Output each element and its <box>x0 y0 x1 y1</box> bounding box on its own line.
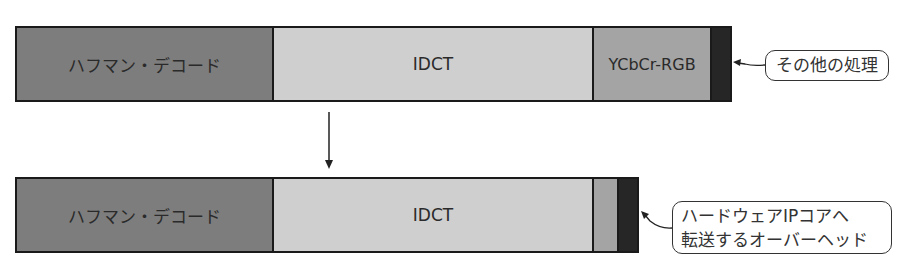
connectors <box>0 0 907 268</box>
pointer-arrow-icon <box>641 211 672 228</box>
down-arrow-icon <box>325 112 333 169</box>
pointer-arrow-icon <box>733 59 765 66</box>
